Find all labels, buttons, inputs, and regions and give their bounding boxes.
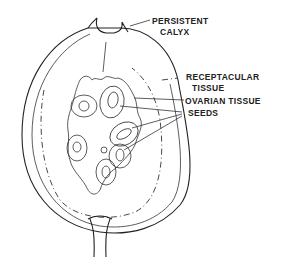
label-receptacular-1: RECEPTACULAR [186, 72, 259, 82]
fruit-outer-wall [22, 28, 190, 233]
seed [102, 166, 110, 178]
seed [79, 101, 89, 111]
ovarian-leader [134, 98, 184, 100]
central-axis [103, 42, 106, 72]
seed-cavity [67, 135, 87, 161]
calyx-leader [130, 20, 150, 26]
seed [116, 149, 124, 161]
seed-cavity [96, 159, 116, 185]
receptacular-leader [162, 78, 178, 80]
seed [107, 91, 120, 108]
persistent-calyx-shape [88, 18, 128, 33]
seed-cavity [71, 95, 97, 117]
seeds-leader-2 [132, 114, 182, 128]
receptacular-boundary [41, 68, 162, 217]
label-persistent-calyx-1: PERSISTENT [152, 16, 209, 26]
seeds-leader-1 [120, 106, 182, 112]
seeds-leader-3 [124, 116, 182, 150]
label-seeds: SEEDS [188, 108, 218, 118]
fruit-section-diagram: PERSISTENT CALYX RECEPTACULAR TISSUE OVA… [0, 0, 283, 257]
central-small-seed [101, 147, 107, 153]
seed [73, 142, 81, 152]
stem [88, 216, 112, 257]
fruit-inner-wall [32, 34, 181, 227]
label-ovarian-tissue: OVARIAN TISSUE [185, 96, 261, 106]
label-persistent-calyx-2: CALYX [160, 27, 190, 37]
seed-cavity [106, 117, 143, 151]
seed-cavity [97, 84, 126, 120]
label-receptacular-2: TISSUE [192, 83, 225, 93]
seed [115, 127, 133, 142]
